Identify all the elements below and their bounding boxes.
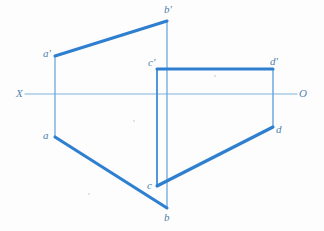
projection-drawing-canvas — [0, 0, 324, 231]
segment-ab-prime — [55, 21, 167, 56]
vertex-label-a: a — [43, 130, 49, 141]
paper-speck — [133, 120, 135, 122]
segment-cd — [157, 127, 273, 186]
paper-speck — [214, 75, 216, 77]
vertex-label-c-prime: c' — [148, 57, 155, 68]
axis-label-o: O — [299, 88, 307, 99]
axis-label-x: X — [16, 88, 23, 99]
descriptive-geometry-figure: X O a' b' c' d' a b c d — [0, 0, 324, 231]
vertex-label-b: b — [164, 212, 170, 223]
segment-ab — [55, 137, 167, 208]
paper-speck — [88, 193, 90, 195]
vertex-label-c: c — [147, 180, 152, 191]
vertex-label-d: d — [276, 124, 282, 135]
vertex-label-a-prime: a' — [43, 48, 51, 59]
vertex-label-d-prime: d' — [270, 56, 278, 67]
vertex-label-b-prime: b' — [164, 4, 172, 15]
